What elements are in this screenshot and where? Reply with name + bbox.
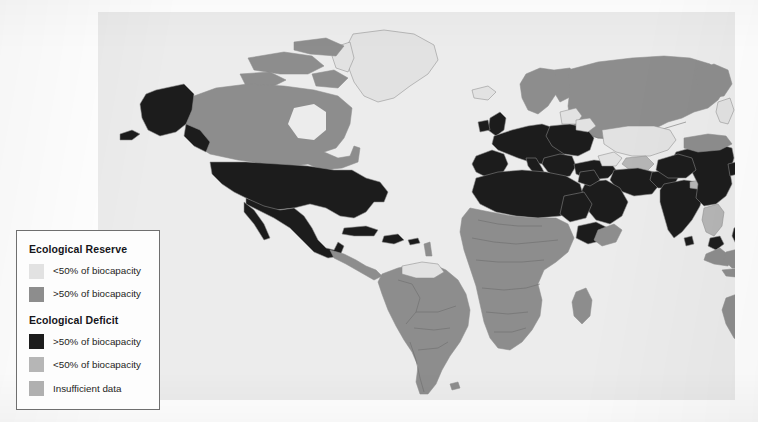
legend-label-reserve-under-50: <50% of biocapacity (53, 266, 141, 276)
legend-item-reserve-over-50: >50% of biocapacity (29, 286, 159, 303)
legend-item-deficit-over-50: >50% of biocapacity (29, 333, 159, 350)
legend-swatch-reserve-under-50 (29, 264, 44, 279)
legend-item-deficit-under-50: <50% of biocapacity (29, 356, 159, 373)
legend-item-reserve-under-50: <50% of biocapacity (29, 263, 159, 280)
map-legend: Ecological Reserve <50% of biocapacity >… (16, 230, 160, 410)
legend-item-insufficient-data: Insufficient data (29, 380, 159, 397)
legend-heading-ecological-reserve: Ecological Reserve (29, 244, 159, 256)
world-map-svg (98, 12, 735, 400)
legend-label-deficit-over-50: >50% of biocapacity (53, 337, 141, 347)
region-ireland (478, 120, 490, 132)
legend-label-reserve-over-50: >50% of biocapacity (53, 289, 141, 299)
legend-swatch-deficit-under-50 (29, 357, 44, 372)
legend-swatch-reserve-over-50 (29, 287, 44, 302)
world-map-figure (98, 12, 735, 400)
legend-swatch-deficit-over-50 (29, 334, 44, 349)
legend-label-deficit-under-50: <50% of biocapacity (53, 360, 141, 370)
legend-heading-ecological-deficit: Ecological Deficit (29, 315, 159, 327)
legend-label-insufficient-data: Insufficient data (53, 384, 121, 394)
legend-swatch-insufficient-data (29, 381, 44, 396)
region-sri-lanka (684, 236, 694, 246)
